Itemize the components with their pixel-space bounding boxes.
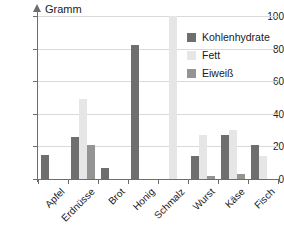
bar — [229, 130, 237, 179]
bar — [251, 145, 259, 179]
x-tick-mark — [68, 179, 69, 184]
x-tick-mark — [128, 179, 129, 184]
x-tick-label: Fisch — [252, 186, 277, 211]
x-tick-label: Brot — [106, 186, 127, 207]
legend-item: Kohlenhydrate — [187, 29, 270, 45]
bar — [131, 45, 139, 179]
bar — [101, 168, 109, 179]
y-axis-arrow-icon — [33, 4, 41, 12]
x-tick-mark — [188, 179, 189, 184]
bar-group — [68, 16, 98, 179]
bar-group — [98, 16, 128, 179]
bar-group — [158, 16, 188, 179]
x-tick-mark — [98, 179, 99, 184]
legend-label: Fett — [202, 49, 220, 61]
x-tick-mark — [218, 179, 219, 184]
bar — [199, 135, 207, 179]
bar — [169, 16, 177, 179]
bar — [87, 145, 95, 179]
x-tick-label: Käse — [223, 186, 247, 210]
legend: KohlenhydrateFettEiweiß — [187, 29, 270, 83]
x-tick-mark — [278, 179, 279, 184]
x-tick-label: Apfel — [43, 186, 67, 210]
legend-swatch-icon — [187, 69, 196, 78]
x-tick-label: Wurst — [191, 186, 217, 212]
legend-item: Fett — [187, 47, 270, 63]
y-axis-title: Gramm — [45, 3, 82, 15]
legend-swatch-icon — [187, 51, 196, 60]
legend-label: Kohlenhydrate — [202, 31, 270, 43]
x-tick-mark — [248, 179, 249, 184]
bar — [71, 137, 79, 179]
bar-chart: Gramm 020406080100 ApfelErdnüsseBrotHoni… — [0, 0, 284, 231]
bar-group — [38, 16, 68, 179]
x-tick-mark — [158, 179, 159, 184]
legend-label: Eiweiß — [202, 67, 234, 79]
bar — [191, 156, 199, 179]
legend-swatch-icon — [187, 33, 196, 42]
bar-group — [128, 16, 158, 179]
legend-item: Eiweiß — [187, 65, 270, 81]
bar — [221, 135, 229, 179]
bar — [41, 155, 49, 179]
x-tick-label: Honig — [131, 186, 157, 212]
bar — [79, 99, 87, 179]
x-tick-label: Schmalz — [152, 186, 187, 221]
x-tick-mark — [38, 179, 39, 184]
bar — [259, 156, 267, 179]
